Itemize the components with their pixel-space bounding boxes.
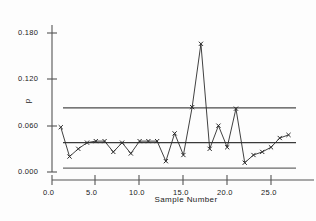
y-tick-label-0000: 0.000 xyxy=(18,167,38,176)
data-point-marker xyxy=(286,133,290,137)
y-axis-title: p xyxy=(23,98,32,103)
y-tick-label-0120: 0.120 xyxy=(18,74,38,83)
x-tick-label-25: 25.0 xyxy=(261,188,277,197)
x-tick-label-20: 20.0 xyxy=(217,188,233,197)
p-control-chart: Sample Number p 0.180 0.120 0.060 0.000 … xyxy=(0,0,316,221)
x-tick-label-0: 0.0 xyxy=(43,188,54,197)
data-point-marker xyxy=(269,145,273,149)
data-point-marker xyxy=(76,147,80,151)
x-tick-label-15: 15.0 xyxy=(173,188,189,197)
data-point-marker xyxy=(251,153,255,157)
series-line-p xyxy=(61,44,289,163)
data-point-marker xyxy=(260,150,264,154)
x-tick-label-10: 10.0 xyxy=(129,188,145,197)
x-tick-label-5: 5.0 xyxy=(86,188,97,197)
y-tick-label-0180: 0.180 xyxy=(18,28,38,37)
y-tick-label-0060: 0.060 xyxy=(18,121,38,130)
data-point-marker xyxy=(111,150,115,154)
control-limit-lines xyxy=(63,108,296,168)
data-point-marker xyxy=(216,124,220,128)
data-point-marker xyxy=(129,151,133,155)
data-series-p xyxy=(59,42,291,165)
data-point-marker xyxy=(278,136,282,140)
